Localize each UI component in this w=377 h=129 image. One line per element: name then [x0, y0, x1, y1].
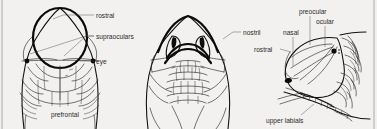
label-preocular: preocular — [299, 8, 327, 16]
lateral-eye-tick-a — [338, 49, 340, 51]
label-nostril: nostril — [243, 29, 261, 36]
label-eye: eye — [96, 58, 107, 66]
label-nasal: nasal — [283, 29, 299, 36]
snake-head-scalation-figure: rostral supraoculars eye prefrontal nost… — [0, 0, 377, 129]
figure-canvas: rostral supraoculars eye prefrontal nost… — [0, 0, 377, 129]
label-rostral-lateral: rostral — [254, 46, 273, 53]
label-ocular: ocular — [316, 18, 335, 25]
lateral-eye-tick-b — [338, 52, 340, 54]
label-prefrontal: prefrontal — [51, 111, 79, 119]
label-rostral-dorsal: rostral — [96, 12, 115, 19]
label-supraoculars: supraoculars — [96, 33, 134, 41]
label-upper-labials: upper labials — [266, 117, 304, 125]
lateral-eye — [331, 48, 336, 53]
dorsal-eye-left — [25, 59, 30, 64]
